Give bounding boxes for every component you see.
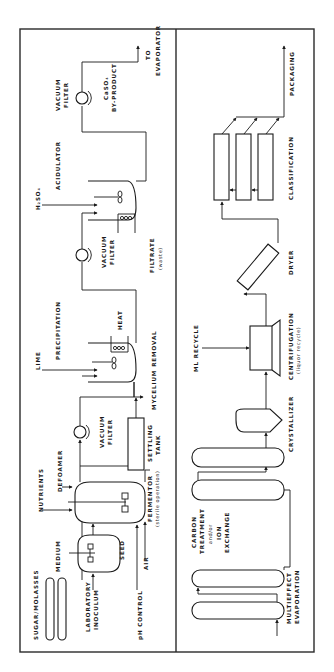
dryer: [237, 244, 279, 290]
label-classification: CLASSIFICATION: [288, 136, 294, 200]
label-crystallizer: CRYSTALLIZER: [288, 396, 294, 452]
fermentor-tank: [75, 482, 145, 523]
label-mycelium-removal: MYCELIUM REMOVAL: [151, 330, 157, 410]
label-vacuum-filter-2a: VACUUM: [101, 236, 107, 268]
label-by-product: BY-PRODUCT: [111, 63, 117, 112]
classification-screen-1: [214, 134, 229, 200]
label-centrifugation-note: (liquor recycle): [295, 327, 302, 374]
label-precipitation: PRECIPITATION: [55, 301, 61, 360]
vacuum-filter-1: [74, 426, 86, 438]
label-h2so4: H₂SO₄: [35, 187, 41, 210]
label-evaporation: EVAPORATION: [294, 570, 300, 624]
label-vacuum-filter-1b: FILTER: [107, 419, 113, 445]
label-lime: LIME: [35, 351, 41, 370]
label-filtrate-note: (waste): [157, 247, 163, 270]
label-evaporator: EVAPORATOR: [155, 25, 161, 76]
acidulator-coil: [118, 214, 135, 233]
label-ion: ION: [216, 526, 222, 540]
label-exchange: EXCHANGE: [224, 512, 230, 553]
label-andor: and/or: [207, 524, 213, 544]
label-to: TO: [145, 50, 151, 60]
to-evaporator-line: [82, 46, 138, 92]
label-acidulator: ACIDULATOR: [55, 141, 61, 190]
evaporator-column-1: [192, 602, 284, 619]
centrifuge: [250, 326, 272, 370]
label-carbon: CARBON: [191, 516, 197, 548]
classification-screen-3: [258, 134, 273, 200]
label-laboratory: LABORATORY: [85, 581, 91, 632]
label-medium: MEDIUM: [55, 540, 61, 572]
label-defoamer: DEFOAMER: [57, 450, 63, 492]
label-treatment: TREATMENT: [199, 508, 205, 554]
sugar-molasses-tanks: [46, 578, 66, 640]
settling-tank: [128, 418, 144, 470]
ion-exchange-column: [192, 448, 284, 467]
vacuum-filter-3: [76, 92, 88, 104]
label-seed: SEED: [119, 540, 125, 560]
label-ph-control: pH CONTROL: [137, 590, 144, 640]
seed-tank: [78, 535, 120, 572]
label-centrifugation: CENTRIFUGATION: [288, 312, 294, 380]
label-ml-recycle: ML RECYCLE: [193, 324, 199, 372]
heat-coil: [111, 336, 128, 352]
label-vacuum-filter-2b: FILTER: [109, 239, 115, 265]
label-packaging: PACKAGING: [289, 51, 295, 96]
to-packaging-line: [236, 46, 284, 117]
label-inoculum: INOCULUM: [93, 589, 99, 630]
label-caso4: CaSO₄: [103, 76, 109, 100]
label-vacuum-filter-1a: VACUUM: [99, 416, 105, 448]
label-fermentor: FERMENTOR: [147, 475, 153, 522]
carbon-treatment-column: [192, 480, 284, 500]
label-nutrients: NUTRIENTS: [38, 468, 44, 512]
label-heat: HEAT: [117, 310, 123, 330]
label-tank: TANK: [155, 435, 161, 455]
process-flow-diagram: SUGAR/MOLASSES MEDIUM SEED LABORATORY IN…: [0, 0, 334, 672]
label-vacuum-filter-3b: FILTER: [63, 82, 69, 108]
label-filtrate: FILTRATE: [149, 238, 155, 273]
label-vacuum-filter-3a: VACUUM: [55, 79, 61, 111]
classification-screen-2: [236, 134, 251, 200]
evaporator-column-2: [192, 570, 284, 587]
label-dryer: DRYER: [288, 250, 294, 275]
label-fermentor-note: (sterile operation): [154, 471, 161, 527]
label-multieffect: MULTIEFFECT: [286, 572, 292, 624]
label-settling: SETTLING: [147, 424, 153, 462]
vacuum-filter-2: [76, 249, 88, 261]
label-air: AIR: [143, 557, 149, 570]
crystallizer: [236, 409, 282, 432]
label-sugar-molasses: SUGAR/MOLASSES: [33, 570, 39, 640]
